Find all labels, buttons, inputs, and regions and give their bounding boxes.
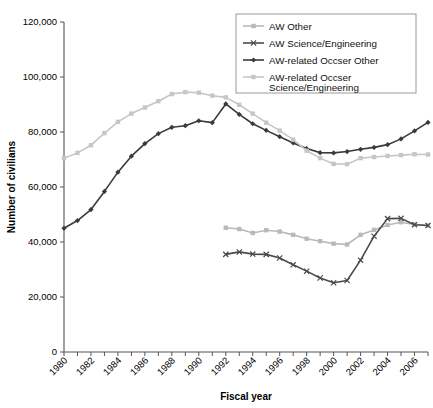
x-axis-tick-label: 2000	[316, 355, 339, 378]
data-point	[318, 239, 322, 243]
legend-label-continued: Science/Engineering	[269, 82, 359, 93]
y-axis-tick-label: 100,000	[23, 71, 57, 82]
data-point	[264, 228, 268, 232]
data-point	[399, 153, 403, 157]
x-axis-tick-label: 1996	[262, 355, 285, 378]
x-axis-tick-label: 2004	[370, 355, 393, 378]
y-axis-tick-label: 80,000	[28, 126, 57, 137]
data-point	[277, 134, 282, 139]
x-axis-tick-label: 1980	[47, 355, 70, 378]
data-point	[251, 231, 255, 235]
data-point	[371, 145, 376, 150]
data-point	[371, 234, 376, 239]
data-point	[196, 118, 201, 123]
y-axis-tick-label: 120,000	[23, 16, 57, 27]
data-point	[251, 111, 255, 115]
data-point	[102, 131, 106, 135]
series-line	[64, 92, 428, 164]
data-point	[331, 162, 335, 166]
data-point	[251, 75, 255, 79]
x-axis-tick-label: 1984	[101, 355, 124, 378]
data-point	[318, 150, 323, 155]
data-point	[318, 156, 322, 160]
y-axis-title: Number of civilians	[6, 140, 17, 233]
y-axis-tick-label: 40,000	[28, 236, 57, 247]
x-axis-tick-label: 1982	[74, 355, 97, 378]
data-point	[372, 155, 376, 159]
data-point	[412, 152, 416, 156]
x-axis-tick-label: 1988	[155, 355, 178, 378]
data-point	[331, 241, 335, 245]
data-point	[291, 138, 295, 142]
x-axis-tick-label: 2006	[397, 355, 420, 378]
data-point	[278, 229, 282, 233]
data-point	[372, 228, 376, 232]
x-axis-tick-label: 1994	[235, 355, 258, 378]
data-point	[183, 123, 188, 128]
data-point	[358, 156, 362, 160]
x-axis-title: Fiscal year	[220, 391, 272, 402]
data-point	[345, 162, 349, 166]
data-point	[385, 223, 389, 227]
data-point	[345, 242, 349, 246]
data-point	[224, 226, 228, 230]
data-point	[143, 105, 147, 109]
data-point	[358, 258, 363, 263]
series-aw-related-occser-science-engineering	[62, 90, 430, 166]
data-point	[116, 120, 120, 124]
data-point	[89, 143, 93, 147]
data-point	[224, 95, 228, 99]
data-point	[237, 227, 241, 231]
x-axis-tick-label: 1986	[128, 355, 151, 378]
data-point	[237, 103, 241, 107]
y-axis-tick-label: 0	[52, 346, 57, 357]
data-point	[358, 233, 362, 237]
data-point	[345, 149, 350, 154]
data-point	[197, 90, 201, 94]
data-point	[304, 237, 308, 241]
data-point	[278, 128, 282, 132]
legend-label: AW-related Occser Other	[269, 55, 379, 66]
data-point	[75, 151, 79, 155]
data-point	[358, 147, 363, 152]
y-axis-tick-label: 20,000	[28, 291, 57, 302]
line-chart: 020,00040,00060,00080,000100,000120,000N…	[0, 0, 433, 408]
x-axis-tick-label: 1990	[182, 355, 205, 378]
data-point	[291, 233, 295, 237]
data-point	[426, 152, 430, 156]
x-axis-tick-label: 1992	[208, 355, 231, 378]
data-point	[169, 125, 174, 130]
data-point	[62, 156, 66, 160]
legend-label: AW Science/Engineering	[269, 38, 377, 49]
series-aw-other	[224, 220, 431, 247]
series-line	[226, 222, 428, 244]
data-point	[385, 142, 390, 147]
data-point	[129, 111, 133, 115]
data-point	[183, 90, 187, 94]
data-point	[264, 128, 269, 133]
data-point	[264, 120, 268, 124]
chart-container: 020,00040,00060,00080,000100,000120,000N…	[0, 0, 433, 408]
series-aw-science-engineering	[223, 216, 430, 286]
data-point	[251, 24, 255, 28]
x-axis-tick-label: 1998	[289, 355, 312, 378]
data-point	[210, 94, 214, 98]
data-point	[331, 150, 336, 155]
data-point	[156, 99, 160, 103]
data-point	[304, 149, 308, 153]
data-point	[385, 154, 389, 158]
data-point	[170, 92, 174, 96]
y-axis-tick-label: 60,000	[28, 181, 57, 192]
x-axis-tick-label: 2002	[343, 355, 366, 378]
chart-legend: AW OtherAW Science/EngineeringAW-related…	[236, 14, 416, 93]
series-line	[226, 218, 428, 282]
legend-label: AW Other	[269, 21, 312, 32]
